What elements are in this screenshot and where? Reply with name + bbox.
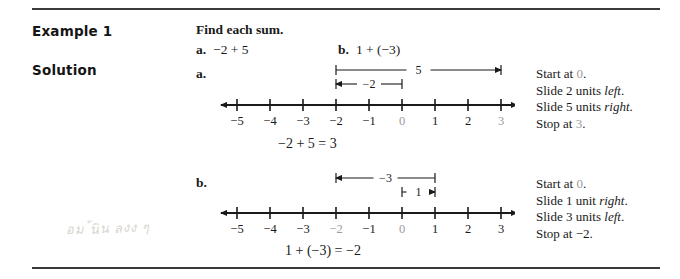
axis-tick-label: 0 [399,222,405,236]
steps-b: Start at 0.Slide 1 unit right.Slide 3 un… [536,176,628,242]
equation-b: 1 + (−3) = −2 [285,243,361,259]
step-text: Slide 2 units [536,83,604,98]
divider-top [32,8,660,10]
step-line: Slide 2 units left. [536,83,633,100]
step-line: Slide 5 units right. [536,99,633,116]
problem-a-tag: a. [196,42,206,57]
step-period: . [625,193,628,208]
problem-b-tag: b. [338,42,349,57]
step-line: Slide 1 unit right. [536,193,628,210]
step-text: Slide 3 units [536,209,604,224]
step-period: . [621,83,624,98]
number-line-svg: −5−4−3−2−10123−31 [215,166,515,266]
step-text: Slide 1 unit [536,193,599,208]
axis-tick-label: −1 [362,114,375,128]
step-line: Start at 0. [536,176,628,193]
step-text: Slide 5 units [536,99,604,114]
step-direction: right [604,99,629,114]
solution-part-b-tag: b. [196,175,207,191]
axis-tick-label: −3 [296,222,309,236]
axis-tick-label: −4 [263,114,277,128]
axis-tick-label: 3 [498,222,504,236]
equation-a: −2 + 5 = 3 [278,136,337,152]
jump-label: −3 [379,171,392,185]
axis-tick-label: −4 [263,222,277,236]
step-period: . [621,209,624,224]
divider-bottom [32,267,660,269]
axis-tick-label: −2 [329,114,342,128]
step-text: Stop at [536,226,576,241]
axis-tick-label: 2 [465,222,471,236]
step-direction: right [599,193,624,208]
step-value: −2 [576,226,590,241]
find-each-sum-heading: Find each sum. [196,22,283,38]
axis-tick-label: −5 [230,222,243,236]
axis-tick-label: 3 [498,114,504,128]
step-line: Slide 3 units left. [536,209,628,226]
step-text: Start at [536,66,576,81]
step-period: . [582,116,585,131]
solution-label: Solution [32,62,97,78]
steps-a: Start at 0.Slide 2 units left.Slide 5 un… [536,66,633,132]
step-text: Start at [536,176,576,191]
number-line-b: −5−4−3−2−10123−31 [215,166,515,266]
solution-part-a-tag: a. [196,66,206,82]
axis-tick-label: 0 [399,114,405,128]
axis-tick-label: −5 [230,114,243,128]
step-period: . [630,99,633,114]
axis-tick-label: −2 [329,222,342,236]
jump-label: −2 [363,77,376,91]
step-line: Stop at 3. [536,116,633,133]
step-direction: left [604,209,621,224]
axis-tick-label: −3 [296,114,309,128]
axis-tick-label: 1 [432,222,438,236]
problem-a: a.−2 + 5 [196,42,249,58]
pencil-annotation: อม ้นิน ลงง ๆ [66,217,150,241]
problem-b-expression: 1 + (−3) [356,42,400,57]
step-period: . [583,176,586,191]
step-period: . [590,226,593,241]
problem-a-expression: −2 + 5 [213,42,248,57]
jump-label: 1 [416,185,422,199]
number-line-svg: −5−4−3−2−101235−2 [215,58,515,158]
textbook-example-page: Example 1 Solution Find each sum. a.−2 +… [0,0,680,279]
problem-b: b.1 + (−3) [338,42,400,58]
axis-tick-label: 2 [465,114,471,128]
number-line-a: −5−4−3−2−101235−2 [215,58,515,158]
step-text: Stop at [536,116,576,131]
step-period: . [583,66,586,81]
jump-label: 5 [416,63,422,77]
axis-tick-label: −1 [362,222,375,236]
step-line: Stop at −2. [536,226,628,243]
example-label: Example 1 [32,23,112,39]
step-direction: left [604,83,621,98]
axis-tick-label: 1 [432,114,438,128]
step-line: Start at 0. [536,66,633,83]
